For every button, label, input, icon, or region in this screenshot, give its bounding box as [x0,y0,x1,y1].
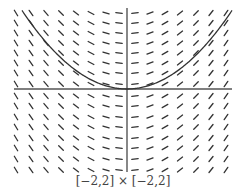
slope-segment [29,114,33,119]
slope-segment [116,96,122,97]
slope-segment [194,136,198,141]
slope-segment [14,70,17,75]
slope-segment [162,51,168,54]
slope-segment [103,169,109,171]
slope-segment [88,126,94,129]
slope-field-figure: [−2,2] × [−2,2] [0,0,246,194]
slope-segment [147,95,153,97]
slope-segment [103,158,109,160]
slope-segment [162,136,168,139]
slope-segment [59,61,64,65]
slope-segment [29,40,33,45]
slope-segment [14,10,17,15]
slope-segment [162,146,168,149]
slope-segment [224,103,228,108]
slope-segment [177,115,182,119]
slope-segment [103,95,109,97]
slope-segment [14,156,17,161]
slope-segment [147,12,153,14]
slope-segment [103,137,109,139]
slope-segment [103,147,109,149]
slope-segment [162,41,168,44]
slope-segment [132,63,138,64]
slope-segment [177,157,182,161]
slope-segment [73,104,78,108]
slope-segment [116,148,122,149]
slope-segment [73,125,78,129]
slope-segment [59,157,64,161]
slope-segment [59,136,64,140]
slope-segment [209,51,213,56]
slope-segment [147,32,153,34]
slope-segment [162,168,168,171]
slope-segment [209,11,213,16]
slope-segment [177,31,182,35]
slope-segment [59,51,64,55]
slope-segment [162,104,168,107]
slope-segment [224,93,228,98]
slope-segment [14,60,17,65]
slope-segment [88,158,94,161]
slope-segment [73,94,78,98]
slope-segment [209,21,213,26]
slope-segments [14,10,227,172]
slope-segment [88,42,94,45]
slope-segment [73,168,78,172]
slope-segment [29,124,33,129]
slope-segment [177,146,182,150]
slope-segment [44,31,48,36]
slope-segment [116,63,122,64]
slope-segment [29,10,33,15]
slope-segment [73,11,78,15]
slope-segment [73,146,78,150]
slope-segment [116,170,122,171]
slope-segment [44,71,48,76]
slope-segment [59,71,64,75]
slope-segment [194,11,198,16]
slope-segment [132,159,138,160]
slope-segment [29,156,33,161]
slope-segment [162,21,168,24]
slope-segment [44,21,48,26]
window-caption: [−2,2] × [−2,2] [0,174,246,188]
slope-segment [162,61,168,64]
slope-segment [162,11,168,14]
slope-segment [44,11,48,16]
slope-segment [73,21,78,25]
slope-segment [132,117,138,118]
slope-segment [103,22,109,24]
slope-segment [177,71,182,75]
slope-segment [14,93,17,98]
slope-segment [177,168,182,172]
slope-segment [132,170,138,171]
slope-segment [224,114,228,119]
slope-segment [29,50,33,55]
slope-segment [103,12,109,14]
slope-segment [177,136,182,140]
slope-segment [73,136,78,140]
slope-segment [44,104,48,109]
slope-segment [132,73,138,74]
slope-segment [59,11,64,15]
slope-segment [209,168,213,173]
slope-segment [88,83,94,86]
slope-segment [116,159,122,160]
slope-segment [162,71,168,74]
slope-segment [116,117,122,118]
slope-segment [224,40,228,45]
slope-segment [44,94,48,99]
slope-segment [44,157,48,162]
slope-segment [177,51,182,55]
slope-segment [116,43,122,44]
slope-segment [147,52,153,54]
slope-segment [147,158,153,160]
slope-segment [88,62,94,65]
slope-segment [194,71,198,76]
slope-segment [44,168,48,173]
slope-segment [209,136,213,141]
slope-segment [194,146,198,151]
slope-segment [209,157,213,162]
slope-segment [116,138,122,139]
slope-segment [224,124,228,129]
slope-segment [162,94,168,97]
